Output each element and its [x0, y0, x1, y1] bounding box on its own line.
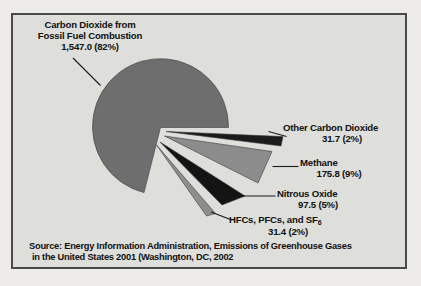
slice-label-nitrous-oxide: Nitrous Oxide 97.5 (5%) [277, 189, 359, 211]
slice-label-hfc-pfc-sf6-text: HFCs, PFCs, and SF [229, 214, 318, 225]
slice-value-other-co2: 31.7 (2%) [283, 134, 401, 145]
slice-label-methane: Methane 175.8 (9%) [300, 158, 378, 180]
slice-label-co2-fossil-line1: Carbon Dioxide from [44, 19, 135, 30]
source-note-line1: Source: Energy Information Administratio… [29, 241, 391, 252]
greenhouse-gas-pie-chart-figure: Carbon Dioxide from Fossil Fuel Combusti… [0, 0, 421, 286]
slice-value-hfc-pfc-sf6: 31.4 (2%) [229, 227, 347, 238]
source-note-line2: in the United States 2001 (Washington, D… [29, 252, 391, 263]
slice-label-hfc-pfc-sf6-subscript: 6 [318, 219, 322, 226]
slice-label-co2-fossil-line2: Fossil Fuel Combustion [38, 30, 142, 41]
slice-label-hfc-pfc-sf6: HFCs, PFCs, and SF6 31.4 (2%) [229, 215, 347, 238]
slice-label-methane-line1: Methane [300, 157, 338, 168]
slice-label-hfc-pfc-sf6-line1: HFCs, PFCs, and SF6 [229, 214, 321, 225]
leader-line-co2-fossil [73, 58, 101, 86]
source-note: Source: Energy Information Administratio… [29, 241, 391, 264]
slice-label-co2-fossil: Carbon Dioxide from Fossil Fuel Combusti… [19, 20, 161, 52]
slice-label-other-co2: Other Carbon Dioxide 31.7 (2%) [283, 123, 401, 145]
leader-line-hfc-pfc-sf6 [211, 212, 231, 220]
slice-value-nitrous-oxide: 97.5 (5%) [277, 200, 359, 211]
slice-label-other-co2-line1: Other Carbon Dioxide [283, 122, 378, 133]
slice-value-methane: 175.8 (9%) [300, 169, 378, 180]
slice-label-nitrous-oxide-line1: Nitrous Oxide [277, 188, 337, 199]
slice-value-co2-fossil: 1,547.0 (82%) [19, 42, 161, 53]
